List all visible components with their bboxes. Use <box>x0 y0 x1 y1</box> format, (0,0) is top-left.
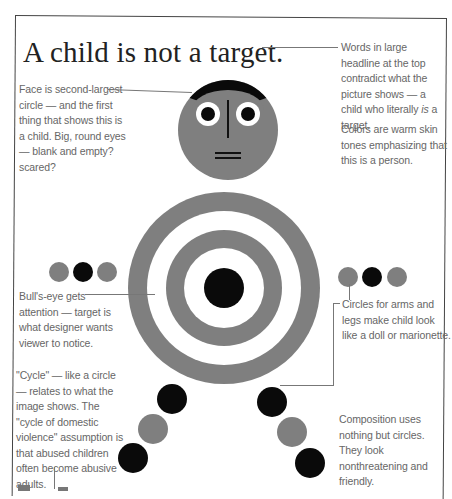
target-ring-4 <box>184 248 264 328</box>
face-circle <box>178 80 278 180</box>
target-ring-2 <box>147 211 301 365</box>
left-leg-circle-2 <box>138 414 168 444</box>
leader-line-headline <box>262 47 338 48</box>
left-arm-circle-1 <box>49 262 69 282</box>
headline: A child is not a target. <box>23 36 283 69</box>
annotation-limbs: Circles for arms and legs make child loo… <box>342 297 452 344</box>
right-leg-circle-1 <box>257 387 287 417</box>
bullseye <box>204 268 244 308</box>
annotation-composition: Composition uses nothing but circles. Th… <box>339 412 447 490</box>
right-arm-circle-3 <box>387 267 407 287</box>
left-arm-circle-2 <box>73 262 93 282</box>
annotation-colors: Colors are warm skin tones emphasizing t… <box>341 122 447 169</box>
leader-line-limbs-down <box>333 303 334 385</box>
left-eye-icon <box>196 102 220 126</box>
right-leg-circle-2 <box>277 417 307 447</box>
leader-line-limbs-bottom <box>280 385 334 386</box>
annotation-bullseye: Bull's-eye gets attention — target is wh… <box>19 289 119 351</box>
left-leg-circle-1 <box>157 384 187 414</box>
annotation-headline: Words in large headline at the top contr… <box>341 40 447 133</box>
right-arm-circle-2 <box>362 267 382 287</box>
right-arm-circle-1 <box>338 267 358 287</box>
leader-line-bullseye <box>85 294 155 295</box>
left-leg-circle-3 <box>118 443 148 473</box>
target-ring-outer <box>128 192 320 384</box>
cutoff-next-heading <box>18 485 78 491</box>
right-eye-icon <box>236 102 260 126</box>
mouth-lines <box>215 152 241 154</box>
left-arm-circle-3 <box>97 262 117 282</box>
leader-line-limbs-corner <box>334 303 340 304</box>
annotation-cycle: "Cycle" — like a circle — relates to wha… <box>16 368 128 492</box>
nose-line <box>227 100 229 138</box>
target-ring-3 <box>166 230 282 346</box>
annotation-face: Face is second-largest circle — and the … <box>19 82 129 175</box>
right-leg-circle-3 <box>295 448 325 478</box>
